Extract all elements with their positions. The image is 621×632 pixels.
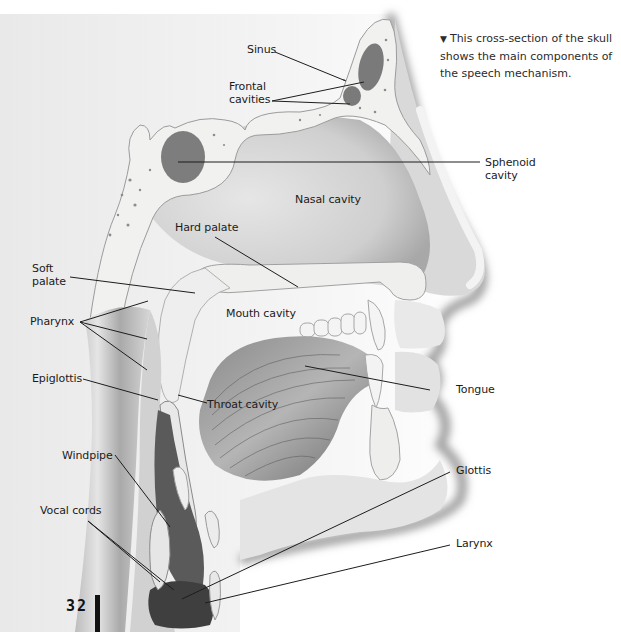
anatomy-figure: Sinus Frontal cavities Sphenoid cavity N… (0, 0, 621, 632)
label-nasal-cavity: Nasal cavity (295, 193, 361, 206)
sphenoid-cavity-shape (161, 131, 205, 183)
label-vocal-cords: Vocal cords (40, 504, 101, 517)
skull-cross-section-illustration (0, 0, 621, 632)
label-throat-cavity: Throat cavity (207, 398, 278, 411)
caption-triangle-icon: ▼ (440, 34, 447, 44)
label-mouth-cavity: Mouth cavity (226, 307, 296, 320)
frontal-sinus-lower (343, 86, 361, 106)
label-windpipe: Windpipe (62, 449, 113, 462)
label-glottis: Glottis (456, 464, 491, 477)
label-epiglottis: Epiglottis (32, 372, 82, 385)
label-frontal-cavities: Frontal cavities (229, 80, 270, 106)
lower-lip (395, 352, 440, 413)
label-pharynx: Pharynx (30, 315, 74, 328)
page-number: 32 (66, 597, 88, 615)
label-larynx: Larynx (456, 537, 493, 550)
label-tongue: Tongue (456, 383, 495, 396)
label-soft-palate: Soft palate (32, 262, 66, 288)
label-sinus: Sinus (247, 43, 276, 56)
label-sphenoid-cavity: Sphenoid cavity (485, 156, 536, 182)
caption-text: This cross-section of the skull shows th… (440, 32, 612, 80)
figure-caption: ▼This cross-section of the skull shows t… (440, 30, 620, 82)
page-number-bar (95, 595, 100, 632)
label-hard-palate: Hard palate (175, 221, 238, 234)
